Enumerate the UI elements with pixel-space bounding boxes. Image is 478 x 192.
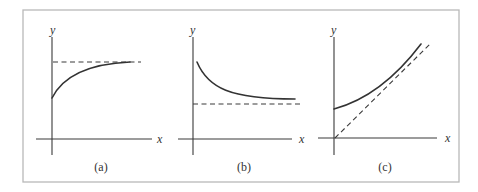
y-axis-label: y bbox=[330, 23, 337, 37]
x-axis-label: x bbox=[298, 132, 305, 146]
panel-c: x y (c) bbox=[318, 23, 451, 174]
figure-frame bbox=[23, 10, 459, 182]
function-curve bbox=[197, 62, 295, 99]
function-curve bbox=[334, 44, 421, 109]
asymptote-line bbox=[335, 44, 430, 138]
y-axis-label: y bbox=[49, 23, 56, 37]
panel-caption: (b) bbox=[237, 160, 251, 174]
panel-a: x y (a) bbox=[36, 23, 163, 174]
panel-caption: (a) bbox=[94, 160, 107, 174]
panel-caption: (c) bbox=[378, 160, 391, 174]
y-axis-label: y bbox=[189, 23, 196, 37]
panel-b: x y (b) bbox=[178, 23, 305, 174]
x-axis-label: x bbox=[156, 132, 163, 146]
x-axis-label: x bbox=[444, 131, 451, 145]
asymptote-figure: x y (a) x y (b) x y (c) bbox=[0, 0, 478, 192]
function-curve bbox=[52, 62, 130, 98]
